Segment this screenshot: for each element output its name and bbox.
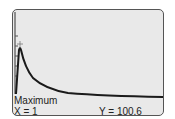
y-readout: Y = 100.6 (99, 106, 142, 116)
mode-label: Maximum (14, 95, 57, 106)
calculator-screen: Maximum X = 1 Y = 100.6 (12, 9, 164, 116)
x-readout: X = 1 (14, 106, 38, 116)
function-curve (16, 48, 164, 97)
